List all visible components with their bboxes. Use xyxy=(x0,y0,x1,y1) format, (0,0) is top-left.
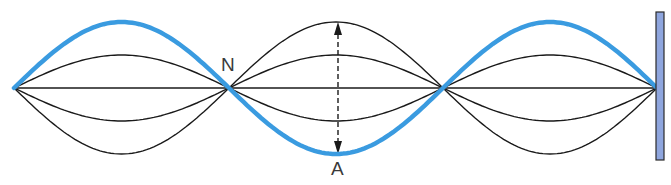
arrow-up-head-icon xyxy=(334,22,342,35)
node-label: N xyxy=(221,54,235,76)
antinode-label: A xyxy=(331,158,344,180)
fixed-wall xyxy=(656,12,664,160)
